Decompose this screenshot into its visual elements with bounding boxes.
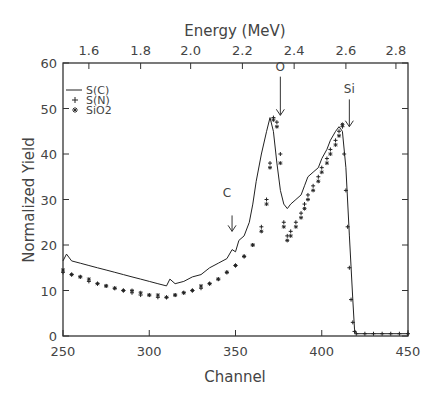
annotation-c: C [223,186,236,231]
x2-axis-label: Energy (MeV) [184,22,285,40]
asterisk-marker [316,179,320,183]
asterisk-marker [173,293,177,297]
x-tick-label: 400 [309,344,334,359]
x2-tick-label: 1.6 [79,43,100,58]
annotation-o: O [276,60,285,116]
annotation-si: Si [344,82,355,126]
plus-marker [294,220,298,224]
asterisk-marker [199,284,203,288]
x2-tick-label: 2.6 [336,43,357,58]
legend-label: SiO2 [86,104,112,117]
x2-tick-label: 1.8 [130,43,151,58]
asterisk-marker [121,289,125,293]
plus-marker [268,161,272,165]
asterisk-marker [242,254,246,258]
plot-border [63,63,408,336]
annotation-label: Si [344,82,355,96]
asterisk-marker [311,188,315,192]
legend: S(C)S(N)SiO2 [66,84,112,117]
asterisk-marker [275,125,279,129]
asterisk-marker [104,284,108,288]
plus-marker [342,152,346,156]
asterisk-marker [271,118,275,122]
asterisk-marker [285,238,289,242]
plus-marker [278,152,282,156]
asterisk-marker [299,216,303,220]
y-tick-label: 60 [40,56,57,71]
plus-marker [363,332,367,336]
x-tick-label: 450 [396,344,421,359]
annotation-label: C [223,186,231,200]
asterisk-marker [208,282,212,286]
x2-tick-label: 2.4 [284,43,305,58]
plus-marker [372,332,376,336]
legend-plus-icon [72,97,78,103]
asterisk-marker [268,166,272,170]
asterisk-marker [251,243,255,247]
y-tick-label: 10 [40,284,57,299]
legend-item-sio2: SiO2 [72,104,112,117]
asterisk-marker [70,273,74,277]
plus-marker [311,184,315,188]
x2-tick-label: 2.0 [180,43,201,58]
asterisk-marker [78,275,82,279]
asterisk-marker [265,202,269,206]
asterisk-marker [182,291,186,295]
plus-marker [289,229,293,233]
y-tick-label: 0 [49,329,57,344]
series-sio2 [61,118,344,299]
plus-marker [259,225,263,229]
plus-marker [406,332,410,336]
annotation-label: O [276,60,285,74]
y-tick-label: 20 [40,238,57,253]
asterisk-marker [278,161,282,165]
y-tick-label: 40 [40,147,57,162]
plus-marker [328,147,332,151]
asterisk-marker [130,289,134,293]
plus-marker [299,211,303,215]
plus-marker [265,198,269,202]
y-tick-label: 30 [40,193,57,208]
asterisk-marker [87,277,91,281]
asterisk-marker [139,291,143,295]
x-tick-label: 350 [223,344,248,359]
asterisk-marker [282,225,286,229]
plus-marker [275,120,279,124]
asterisk-marker [303,207,307,211]
asterisk-marker [334,143,338,147]
plus-marker [316,175,320,179]
plus-marker [320,166,324,170]
asterisk-marker [156,293,160,297]
asterisk-marker [113,286,117,290]
plus-marker [337,129,341,133]
y-tick-label: 50 [40,102,57,117]
plus-marker [285,234,289,238]
x2-axis-energy: 1.61.82.02.22.42.62.8 [79,43,407,69]
x-axis-label: Channel [204,368,266,386]
asterisk-marker [216,277,220,281]
asterisk-marker [328,152,332,156]
plus-marker [325,157,329,161]
legend-asterisk-icon [72,107,78,113]
asterisk-marker [234,263,238,267]
y-axis-label: Normalized Yield [20,137,38,263]
asterisk-marker [306,198,310,202]
x2-tick-label: 2.8 [386,43,407,58]
asterisk-marker [337,134,341,138]
asterisk-marker [147,293,151,297]
asterisk-marker [340,122,344,126]
asterisk-marker [325,161,329,165]
plus-marker [334,138,338,142]
asterisk-marker [225,270,229,274]
asterisk-marker [320,170,324,174]
asterisk-marker [289,234,293,238]
plus-marker [389,332,393,336]
rbs-spectrum-chart: 250300350400450 0102030405060 1.61.82.02… [0,0,437,396]
plus-marker [303,202,307,206]
plus-marker [397,332,401,336]
asterisk-marker [190,289,194,293]
x-tick-label: 300 [137,344,162,359]
plus-marker [380,332,384,336]
asterisk-marker [259,229,263,233]
asterisk-marker [96,282,100,286]
